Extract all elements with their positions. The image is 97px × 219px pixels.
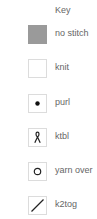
ktbl-twisted-stitch-icon xyxy=(28,128,47,147)
key-item-knit: knit xyxy=(28,59,97,78)
key-item-label: k2tog xyxy=(55,199,77,209)
key-item-purl: purl xyxy=(28,94,97,113)
key-item-ktbl: ktbl xyxy=(28,128,97,147)
key-item-no-stitch: no stitch xyxy=(28,25,97,44)
key-item-label: yarn over xyxy=(55,165,93,175)
key-item-label: purl xyxy=(55,97,70,107)
key-item-yarn-over: yarn over xyxy=(28,162,97,181)
key-item-label: no stitch xyxy=(55,28,89,38)
k2tog-slash-icon xyxy=(28,196,47,215)
key-item-label: knit xyxy=(55,62,69,72)
key-title: Key xyxy=(55,5,71,15)
purl-dot-icon xyxy=(28,94,47,113)
key-item-k2tog: k2tog xyxy=(28,196,97,215)
yarn-over-circle-icon xyxy=(28,162,47,181)
no-stitch-symbol-icon xyxy=(28,25,47,44)
knit-symbol-icon xyxy=(28,59,47,78)
key-item-label: ktbl xyxy=(55,131,69,141)
